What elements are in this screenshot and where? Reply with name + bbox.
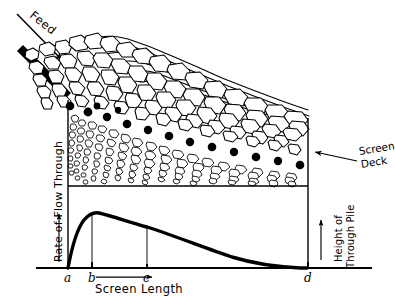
tick-label-a: a xyxy=(64,271,71,285)
y-axis-right-label-line2: Through Pile xyxy=(345,205,356,268)
tick-label-d: d xyxy=(304,271,312,285)
y-axis-right-label-line1: Height of xyxy=(333,215,344,262)
rate-of-flow-curve xyxy=(68,213,307,268)
x-axis-label: Screen Length xyxy=(95,282,183,296)
curve-gridlines xyxy=(92,214,147,267)
screen-deck-pointer xyxy=(315,152,357,161)
y-axis-left-label: Rate of Flow Through xyxy=(52,141,65,262)
